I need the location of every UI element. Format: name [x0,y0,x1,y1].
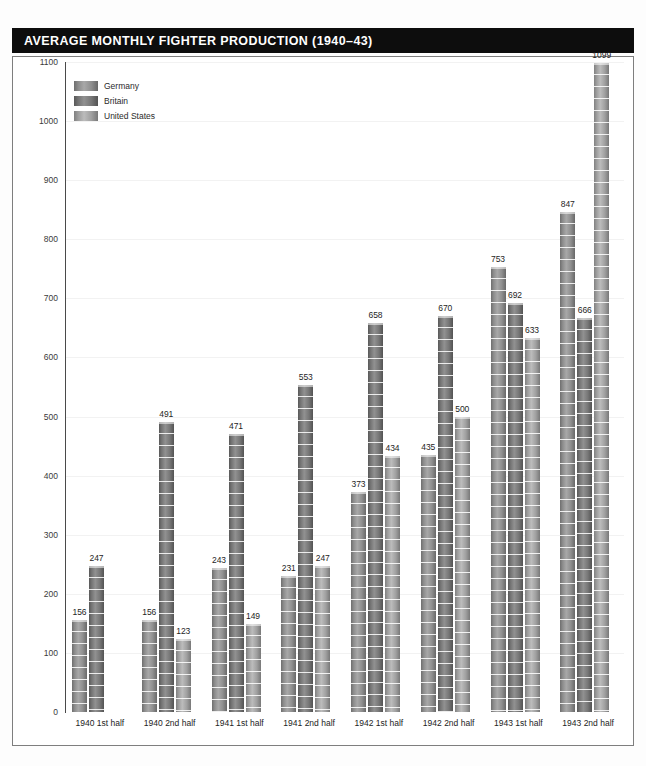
y-axis-tick-label: 800 [44,234,58,244]
bar-germany: 753 [491,267,506,712]
bar-germany: 156 [72,620,87,712]
bar-cap [508,303,523,305]
bar-germany: 847 [560,212,575,713]
bar-britain: 666 [577,318,592,712]
bar-value-label: 670 [438,303,452,313]
bar-cap [281,576,296,578]
x-axis-category-label: 1943 2nd half [562,718,614,728]
x-axis-category-label: 1941 2nd half [283,718,335,728]
bar-britain: 471 [229,434,244,712]
bar-cap [368,323,383,325]
x-axis-category-label: 1941 1st half [215,718,264,728]
bar-value-label: 231 [282,563,296,573]
bar-group: 84766610991943 2nd half [553,62,623,712]
page-title: AVERAGE MONTHLY FIGHTER PRODUCTION (1940… [24,34,373,48]
bar-group: 4356705001942 2nd half [414,62,484,712]
bar-britain: 658 [368,323,383,712]
bar-cap [142,620,157,622]
bar-value-label: 847 [561,199,575,209]
bar-group: 3736584341942 1st half [344,62,414,712]
plot-area: 1562471940 1st half1564911231940 2nd hal… [65,62,623,712]
bar-germany: 373 [351,492,366,712]
y-axis-tick-label: 900 [44,175,58,185]
bar-cap [455,417,470,419]
bar-britain: 670 [438,316,453,712]
bar-united-states: 500 [455,417,470,712]
y-axis-tick-label: 0 [53,707,58,717]
bar-value-label: 243 [212,555,226,565]
y-axis-tick-label: 400 [44,471,58,481]
bar-value-label: 491 [159,409,173,419]
bar-value-label: 149 [246,611,260,621]
y-axis-tick-label: 500 [44,412,58,422]
bar-value-label: 753 [491,254,505,264]
bar-value-label: 500 [455,404,469,414]
x-axis-category-label: 1940 1st half [76,718,125,728]
bar-value-label: 156 [72,607,86,617]
bar-group: 1562471940 1st half [65,62,135,712]
bar-cap [560,212,575,214]
bar-value-label: 247 [316,553,330,563]
bar-cap [89,566,104,568]
bar-cap [577,318,592,320]
bar-value-label: 633 [525,325,539,335]
bar-cap [315,566,330,568]
bar-value-label: 666 [578,305,592,315]
y-axis-tick-label: 1000 [39,116,58,126]
y-axis-tick-label: 600 [44,352,58,362]
bar-united-states: 633 [525,338,540,712]
bar-cap [229,434,244,436]
bar-value-label: 373 [351,479,365,489]
bar-value-label: 156 [142,607,156,617]
y-axis-tick-label: 300 [44,530,58,540]
bar-cap [246,624,261,626]
bar-value-label: 692 [508,290,522,300]
y-axis-tick-label: 200 [44,589,58,599]
bar-cap [525,338,540,340]
y-axis-tick-label: 700 [44,293,58,303]
bar-germany: 231 [281,576,296,713]
bar-cap [298,385,313,387]
y-axis-tick-label: 1100 [40,57,58,67]
bar-cap [212,568,227,570]
x-axis-category-label: 1940 2nd half [144,718,196,728]
bar-value-label: 1099 [592,50,611,60]
bar-united-states: 1099 [594,63,609,712]
y-axis-tick-label: 100 [44,648,58,658]
bar-group: 7536926331943 1st half [484,62,554,712]
bar-value-label: 471 [229,421,243,431]
x-axis-category-label: 1942 2nd half [423,718,475,728]
bar-value-label: 247 [89,553,103,563]
bar-united-states: 149 [246,624,261,712]
y-axis-labels: 010020030040050060070080090010001100 [0,0,64,766]
bar-cap [594,63,609,65]
bar-cap [351,492,366,494]
bar-value-label: 658 [368,310,382,320]
bar-united-states: 247 [315,566,330,712]
x-axis-category-label: 1943 1st half [494,718,543,728]
bar-britain: 491 [159,422,174,712]
bar-germany: 156 [142,620,157,712]
x-axis-category-label: 1942 1st half [355,718,404,728]
bar-united-states: 434 [385,456,400,712]
bar-britain: 692 [508,303,523,712]
bar-value-label: 123 [176,626,190,636]
bar-value-label: 434 [385,443,399,453]
bar-cap [176,639,191,641]
chart-title-bar: AVERAGE MONTHLY FIGHTER PRODUCTION (1940… [12,28,634,53]
bar-group: 1564911231940 2nd half [135,62,205,712]
bar-germany: 435 [421,455,436,712]
bar-britain: 553 [298,385,313,712]
bar-cap [491,267,506,269]
bar-cap [385,456,400,458]
bar-germany: 243 [212,568,227,712]
bar-group: 2315532471941 2nd half [274,62,344,712]
bar-group: 2434711491941 1st half [205,62,275,712]
bar-cap [72,620,87,622]
bar-cap [421,455,436,457]
bar-cap [159,422,174,424]
chart-page: AVERAGE MONTHLY FIGHTER PRODUCTION (1940… [0,0,646,766]
bar-value-label: 435 [421,442,435,452]
bar-united-states: 123 [176,639,191,712]
bar-value-label: 553 [299,372,313,382]
